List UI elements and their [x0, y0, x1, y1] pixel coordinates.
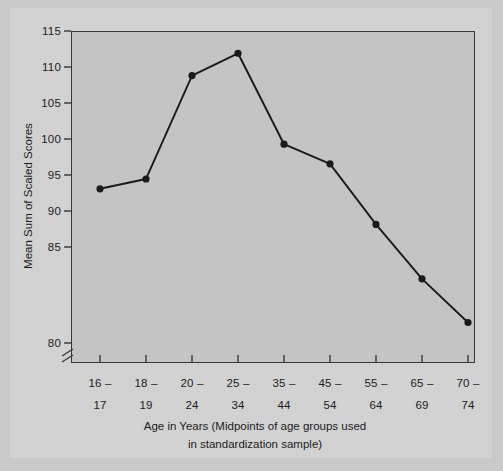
y-axis-tick-label: 80 — [21, 337, 61, 349]
y-axis-tick-label: 115 — [21, 25, 61, 37]
plot-area — [71, 31, 475, 363]
figure-root: 115 110 105 100 95 90 85 80 Mean Sum of … — [0, 0, 503, 471]
x-axis-title-line2: in standardization sample) — [60, 435, 450, 453]
y-axis-tick-label: 110 — [21, 61, 61, 73]
x-axis-title-line1: Age in Years (Midpoints of age groups us… — [60, 417, 450, 435]
x-axis-title: Age in Years (Midpoints of age groups us… — [60, 417, 450, 453]
x-axis-tick-label-bottom: 74 — [441, 399, 495, 411]
y-axis-title: Mean Sum of Scaled Scores — [22, 106, 34, 286]
x-axis-tick-label-top: 70 – — [441, 377, 495, 389]
